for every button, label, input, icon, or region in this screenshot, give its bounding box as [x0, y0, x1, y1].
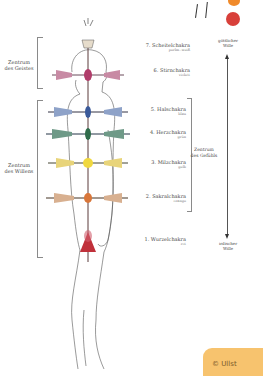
- chakra-1-color: rot: [136, 242, 186, 246]
- earthly-will-label: irdischer Wille: [218, 241, 238, 251]
- chakra-4-color: grün: [140, 135, 186, 139]
- feeling-center-label: Zentrum des Gefühls: [187, 147, 221, 159]
- divine-will-label: göttlicher Wille: [218, 38, 238, 48]
- spirit-center-label: Zentrum des Geistes: [2, 59, 36, 71]
- chakra-2: 2. Sakralchakra orange: [136, 193, 186, 203]
- will-bracket: [37, 100, 43, 258]
- chakra-4: 4. Herzchakra grün: [140, 129, 186, 139]
- chakra-7-color: perlm.-weiß: [140, 48, 190, 52]
- chakra-3-color: gelb: [140, 165, 186, 169]
- down-arrow-icon: [225, 234, 229, 239]
- crown-chakra-icon: [82, 18, 94, 48]
- chakra-5: 5. Halschakra blau: [140, 106, 186, 116]
- chakra-6-color: violett: [140, 73, 190, 77]
- copyright-badge: © Ullst: [203, 348, 263, 376]
- chakra-3: 3. Milzchakra gelb: [140, 159, 186, 169]
- chakra-1: 1. Wurzelchakra rot: [136, 236, 186, 246]
- chakra-5-color: blau: [140, 112, 186, 116]
- chakra-6: 6. Stirnchakra violett: [140, 67, 190, 77]
- copyright-text: © Ullst: [212, 360, 237, 368]
- up-arrow-icon: [225, 54, 229, 59]
- will-axis-line: [227, 58, 228, 236]
- spirit-bracket: [37, 37, 43, 89]
- chakra-7: 7. Scheitelchakra perlm.-weiß: [140, 42, 190, 52]
- chakra-1-name: 1. Wurzelchakra: [136, 236, 186, 242]
- chakra-2-color: orange: [136, 199, 186, 203]
- will-center-label: Zentrum des Willens: [2, 162, 36, 174]
